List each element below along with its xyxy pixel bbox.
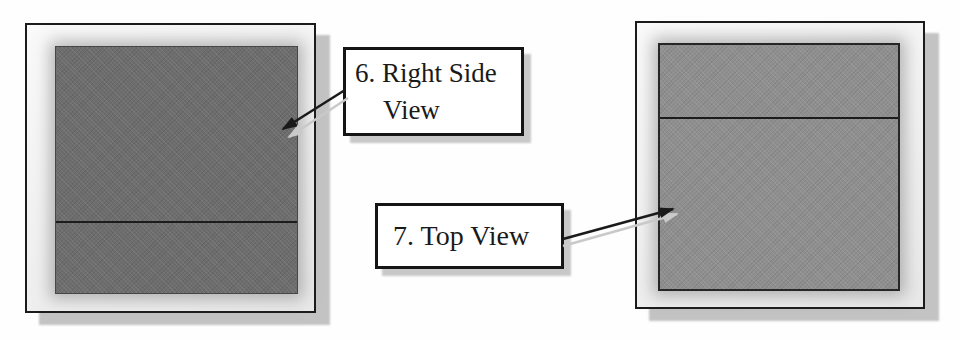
right-side-view-divider-line (56, 221, 297, 223)
callout-right-side-view: 6. Right Side View (343, 47, 524, 136)
callout-right-side-view-line2: View (346, 92, 521, 129)
right-side-view-surface (55, 46, 298, 294)
callout-top-view-label: 7. Top View (393, 220, 529, 252)
right-side-view-card (25, 23, 316, 313)
top-view-card (635, 21, 925, 309)
callout-top-view: 7. Top View (375, 203, 564, 269)
callout-right-side-view-line1: 6. Right Side (346, 55, 521, 92)
top-view-surface (658, 43, 900, 291)
figure-canvas: 6. Right Side View 7. Top View (0, 0, 960, 340)
top-view-divider-line (660, 117, 898, 119)
